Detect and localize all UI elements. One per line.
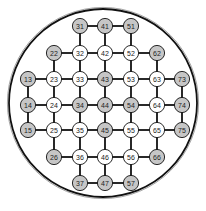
node-13: 13	[20, 71, 35, 86]
node-37: 37	[72, 175, 87, 190]
node-75: 75	[174, 122, 189, 137]
node-41: 41	[97, 18, 112, 33]
node-55: 55	[123, 122, 138, 137]
node-label: 51	[127, 23, 135, 30]
node-65: 65	[149, 122, 164, 137]
node-label: 33	[76, 76, 84, 83]
node-33: 33	[72, 71, 87, 86]
node-43: 43	[97, 71, 112, 86]
node-label: 35	[76, 127, 84, 134]
grid-diagram: 3141512232425262132333435363731424344454…	[0, 0, 206, 211]
node-label: 45	[101, 127, 109, 134]
node-label: 55	[127, 127, 135, 134]
node-label: 22	[50, 50, 58, 57]
node-45: 45	[97, 122, 112, 137]
node-66: 66	[149, 149, 164, 164]
node-label: 26	[50, 154, 58, 161]
node-label: 74	[178, 102, 186, 109]
node-label: 43	[101, 76, 109, 83]
node-74: 74	[174, 97, 189, 112]
node-14: 14	[20, 97, 35, 112]
node-42: 42	[97, 45, 112, 60]
node-label: 34	[76, 102, 84, 109]
node-35: 35	[72, 122, 87, 137]
node-label: 36	[76, 154, 84, 161]
node-47: 47	[97, 175, 112, 190]
node-label: 46	[101, 154, 109, 161]
node-44: 44	[97, 97, 112, 112]
node-label: 23	[50, 76, 58, 83]
node-label: 54	[127, 102, 135, 109]
node-62: 62	[149, 45, 164, 60]
node-label: 56	[127, 154, 135, 161]
node-label: 75	[178, 127, 186, 134]
node-23: 23	[46, 71, 61, 86]
node-56: 56	[123, 149, 138, 164]
node-51: 51	[123, 18, 138, 33]
node-label: 32	[76, 50, 84, 57]
node-label: 42	[101, 50, 109, 57]
node-label: 24	[50, 102, 58, 109]
node-36: 36	[72, 149, 87, 164]
node-label: 25	[50, 127, 58, 134]
node-label: 62	[153, 50, 161, 57]
node-46: 46	[97, 149, 112, 164]
node-label: 47	[101, 180, 109, 187]
node-57: 57	[123, 175, 138, 190]
node-label: 14	[24, 102, 32, 109]
node-31: 31	[72, 18, 87, 33]
node-label: 52	[127, 50, 135, 57]
node-label: 41	[101, 23, 109, 30]
node-label: 73	[178, 76, 186, 83]
node-73: 73	[174, 71, 189, 86]
node-label: 64	[153, 102, 161, 109]
node-15: 15	[20, 122, 35, 137]
node-26: 26	[46, 149, 61, 164]
node-label: 63	[153, 76, 161, 83]
node-64: 64	[149, 97, 164, 112]
node-34: 34	[72, 97, 87, 112]
node-32: 32	[72, 45, 87, 60]
node-label: 15	[24, 127, 32, 134]
node-label: 53	[127, 76, 135, 83]
node-54: 54	[123, 97, 138, 112]
grid-graph-svg: 3141512232425262132333435363731424344454…	[0, 0, 206, 211]
node-22: 22	[46, 45, 61, 60]
node-52: 52	[123, 45, 138, 60]
node-label: 65	[153, 127, 161, 134]
node-63: 63	[149, 71, 164, 86]
node-24: 24	[46, 97, 61, 112]
node-label: 13	[24, 76, 32, 83]
node-label: 31	[76, 23, 84, 30]
node-label: 57	[127, 180, 135, 187]
node-25: 25	[46, 122, 61, 137]
node-53: 53	[123, 71, 138, 86]
node-label: 44	[101, 102, 109, 109]
node-label: 37	[76, 180, 84, 187]
node-label: 66	[153, 154, 161, 161]
